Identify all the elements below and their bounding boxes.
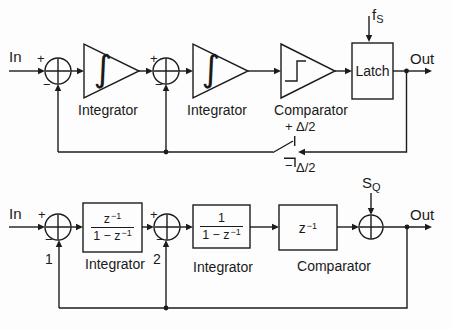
- dac-plus-sign: +: [285, 120, 293, 134]
- node-1-label: 1: [45, 252, 53, 267]
- block1-numerator: z−1: [102, 212, 124, 227]
- quantization-noise-label: SQ: [362, 175, 381, 192]
- delta-sigma-modulator-figure: { "figure": { "top": { "in_label": "In",…: [0, 0, 452, 330]
- top-sum2-minus-sign: −: [155, 78, 163, 92]
- latch-label: Latch: [352, 43, 393, 99]
- node-2-label: 2: [153, 252, 161, 267]
- bottom-integrator1-label: Integrator: [85, 257, 145, 272]
- bottom-sum1-plus-sign: +: [38, 208, 46, 222]
- step-function-icon: [285, 61, 306, 81]
- top-comparator-label: Comparator: [274, 103, 348, 118]
- comparator-triangle: [281, 44, 335, 98]
- block1-denominator: 1 − z−1: [91, 227, 134, 243]
- top-integrator2-label: Integrator: [187, 103, 247, 118]
- dac-plus-level-label: Δ/2: [296, 120, 316, 134]
- top-in-label: In: [9, 49, 22, 66]
- switch-wiper: [273, 141, 293, 153]
- bottom-sum2-minus-sign: −: [156, 233, 164, 247]
- bottom-integrator1-transfer-function: z−1 1 − z−1: [83, 203, 142, 252]
- bottom-sum1-minus-sign: −: [45, 233, 53, 247]
- block2-denominator: 1 − z−1: [200, 226, 243, 242]
- bottom-in-label: In: [9, 206, 22, 223]
- top-out-label: Out: [410, 51, 434, 68]
- top-sum1-plus-sign: +: [37, 52, 45, 66]
- bottom-integrator2-transfer-function: 1 1 − z−1: [193, 205, 250, 248]
- dac-minus-sign: −: [285, 159, 293, 173]
- dac-minus-level-label: Δ/2: [296, 161, 316, 175]
- integral-icon: ∫: [202, 51, 221, 87]
- sampling-clock-label: fS: [372, 7, 384, 24]
- top-sum2-plus-sign: +: [150, 52, 158, 66]
- bottom-comparator-transfer-function: z−1: [279, 205, 337, 250]
- integral-icon: ∫: [94, 51, 113, 87]
- bottom-out-label: Out: [410, 207, 434, 224]
- block2-numerator: 1: [216, 211, 227, 226]
- top-integrator1-label: Integrator: [78, 103, 138, 118]
- bottom-comparator-label: Comparator: [297, 259, 371, 274]
- bottom-integrator2-label: Integrator: [193, 260, 253, 275]
- top-sum1-minus-sign: −: [43, 78, 51, 92]
- bottom-sum2-plus-sign: +: [150, 208, 158, 222]
- bottom-output-sum-junction: [359, 215, 383, 239]
